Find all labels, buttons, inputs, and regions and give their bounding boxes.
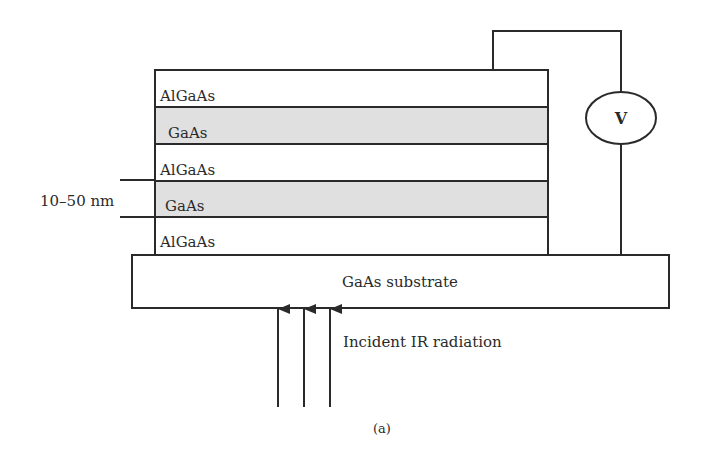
- layer-4-gaas: [155, 181, 548, 217]
- layer-5-label: AlGaAs: [159, 233, 215, 251]
- voltmeter-label: V: [614, 109, 628, 128]
- substrate-label: GaAs substrate: [342, 273, 458, 291]
- layer-2-label: GaAs: [168, 124, 207, 142]
- incident-radiation: [278, 309, 330, 407]
- thickness-label: 10–50 nm: [40, 192, 114, 210]
- thickness-annotation: 10–50 nm: [40, 180, 155, 217]
- figure-caption: (a): [373, 421, 391, 436]
- substrate: GaAs substrate: [132, 255, 669, 308]
- layer-1-label: AlGaAs: [159, 87, 215, 105]
- radiation-label: Incident IR radiation: [343, 333, 502, 351]
- layer-4-label: GaAs: [165, 197, 204, 215]
- qwip-diagram: AlGaAs GaAs AlGaAs GaAs AlGaAs 10–50 nm …: [0, 0, 707, 465]
- layer-2-gaas: [155, 107, 548, 144]
- layer-3-label: AlGaAs: [159, 161, 215, 179]
- layer-stack: AlGaAs GaAs AlGaAs GaAs AlGaAs: [155, 70, 548, 255]
